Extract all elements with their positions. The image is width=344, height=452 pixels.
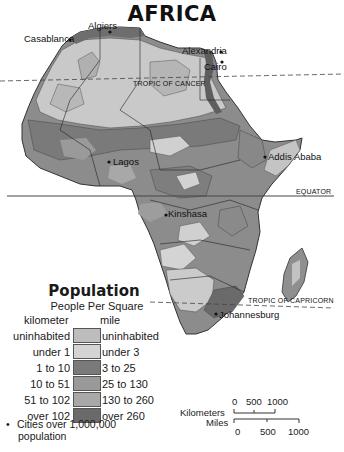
scale-mi-tick-500: 500 [260,426,276,437]
city-label-algiers: Algiers [88,20,117,31]
legend-swatch-under-1 [73,344,101,359]
unit-mile: mile [100,314,120,326]
city-label-addis-ababa: Addis Ababa [268,151,321,162]
legend-km-value: 10 to 51 [30,378,70,390]
scale-bar: 0 500 1000 Kilometers Miles 0 500 1000 [180,398,344,442]
scale-km-tick-500: 500 [246,396,262,407]
city-label-casablanca: Casablanca [24,33,74,44]
bullet-icon: • [6,418,14,430]
city-label-cairo: Cairo [204,61,227,72]
legend-swatch-uninhabited [73,328,101,343]
legend-swatch-1-to-10 [73,360,101,375]
cities-note-line2: population [6,430,116,442]
population-legend: Population People Per Square kilometer m… [4,282,176,424]
city-label-kinshasa: Kinshasa [168,208,207,219]
unit-kilometer: kilometer [24,314,69,326]
legend-mi-value: 3 to 25 [102,362,136,374]
scale-mi-tick-0: 0 [235,426,240,437]
scale-km-tick-1000: 1000 [267,396,288,407]
scale-km-tick-0: 0 [232,396,237,407]
legend-km-value: 51 to 102 [24,394,70,406]
scale-mi-label: Miles [206,417,228,428]
legend-row: 1 to 10 3 to 25 [4,360,176,376]
city-label-johannesburg: Johannesburg [219,309,279,320]
tropic-of-cancer-label: TROPIC OF CANCER [133,80,206,87]
legend-mi-value: uninhabited [102,330,159,342]
legend-row: under 1 under 3 [4,344,176,360]
legend-units: kilometer mile [4,312,176,328]
city-label-alexandria: Alexandria [182,45,227,56]
legend-mi-value: 25 to 130 [102,378,148,390]
cities-note-line1: Cities over 1,000,000 [17,418,116,430]
legend-mi-value: 130 to 260 [102,394,154,406]
cities-note: • Cities over 1,000,000 population [6,418,116,442]
legend-km-value: under 1 [33,346,70,358]
legend-subtitle: People Per Square [18,300,176,312]
legend-swatch-10-to-51 [73,376,101,391]
legend-row: uninhabited uninhabited [4,328,176,344]
scale-mi-tick-1000: 1000 [288,426,309,437]
legend-km-value: 1 to 10 [36,362,70,374]
legend-row: 51 to 102 130 to 260 [4,392,176,408]
city-label-lagos: Lagos [113,156,139,167]
legend-row: 10 to 51 25 to 130 [4,376,176,392]
legend-rows: uninhabited uninhabited under 1 under 3 … [4,328,176,424]
legend-swatch-51-to-102 [73,392,101,407]
equator-label: EQUATOR [296,188,331,195]
legend-km-value: uninhabited [13,330,70,342]
tropic-of-capricorn-label: TROPIC OF CAPRICORN [248,297,334,304]
legend-mi-value: under 3 [102,346,139,358]
legend-title: Population [12,282,176,300]
